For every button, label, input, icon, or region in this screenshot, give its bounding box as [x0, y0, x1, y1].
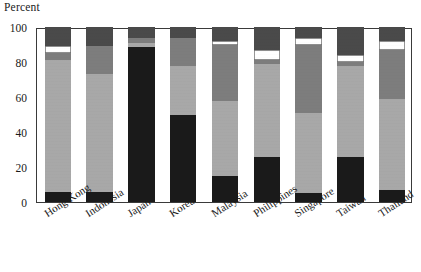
stacked-bar-chart: Percent 020406080100 Hong KongIndonesiaJ… [0, 0, 421, 272]
bar-segment-segment-3-medium-gray [212, 45, 239, 101]
y-axis-title: Percent [4, 1, 40, 13]
plot-area [36, 28, 412, 203]
bar-japan [128, 27, 155, 202]
bar-segment-segment-2-light-gray [295, 113, 322, 194]
bar-segment-segment-5-dark-gray [170, 27, 197, 38]
bar-segment-segment-3-medium-gray [170, 38, 197, 66]
bar-segment-segment-5-dark-gray [45, 27, 72, 46]
bar-segment-segment-5-dark-gray [212, 27, 239, 41]
bar-segment-segment-2-light-gray [170, 66, 197, 115]
bar-segment-segment-2-light-gray [212, 101, 239, 176]
bar-segment-segment-4-white [379, 41, 406, 50]
bar-segment-segment-4-white [254, 50, 281, 61]
y-axis-tick-label: 100 [0, 22, 36, 34]
y-axis-tick-label: 80 [0, 57, 36, 69]
bar-philippines [254, 27, 281, 202]
bar-segment-segment-5-dark-gray [128, 27, 155, 38]
bar-segment-segment-3-medium-gray [295, 45, 322, 113]
bar-korea [170, 27, 197, 202]
y-axis-tick-label: 20 [0, 162, 36, 174]
bar-malaysia [212, 27, 239, 202]
bar-segment-segment-5-dark-gray [86, 27, 113, 46]
bar-segment-segment-5-dark-gray [337, 27, 364, 55]
bar-taiwan [337, 27, 364, 202]
bar-segment-segment-3-medium-gray [86, 46, 113, 74]
bar-segment-segment-3-medium-gray [45, 53, 72, 60]
bar-segment-segment-4-white [337, 55, 364, 62]
y-axis-tick-label: 60 [0, 92, 36, 104]
y-axis-tick-label: 40 [0, 127, 36, 139]
bar-segment-segment-2-light-gray [86, 74, 113, 191]
bar-segment-segment-2-light-gray [254, 64, 281, 157]
bar-thailand [379, 27, 406, 202]
bar-segment-segment-1-black [170, 115, 197, 203]
bar-segment-segment-2-light-gray [379, 99, 406, 190]
bar-segment-segment-2-light-gray [45, 60, 72, 191]
bar-segment-segment-5-dark-gray [379, 27, 406, 41]
bar-indonesia [86, 27, 113, 202]
bar-segment-segment-5-dark-gray [254, 27, 281, 50]
bar-segment-segment-1-black [128, 47, 155, 202]
y-axis-tick-label: 0 [0, 197, 36, 209]
bar-hong-kong [45, 27, 72, 202]
bar-segment-segment-5-dark-gray [295, 27, 322, 38]
bar-singapore [295, 27, 322, 202]
bar-segment-segment-3-medium-gray [379, 50, 406, 99]
bar-segment-segment-2-light-gray [337, 66, 364, 157]
bar-segment-segment-4-white [45, 46, 72, 53]
bar-segment-segment-4-white [295, 38, 322, 45]
